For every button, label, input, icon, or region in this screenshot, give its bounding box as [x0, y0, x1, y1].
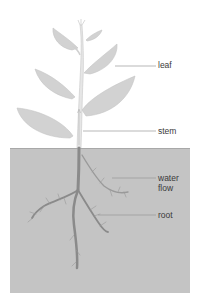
leaf-bottom-left	[17, 108, 73, 138]
leaf-mid-right	[84, 44, 117, 74]
shoot-tip	[78, 19, 85, 25]
water-label: water	[158, 174, 179, 183]
plant-diagram	[0, 0, 200, 306]
stem	[77, 25, 83, 148]
leaf-mid-left	[35, 69, 75, 99]
root-label: root	[158, 211, 173, 220]
flow-label: flow	[158, 184, 173, 193]
leaf-label: leaf	[158, 61, 172, 70]
soil-area	[10, 148, 190, 293]
leaf-top-right	[86, 30, 102, 41]
leaf-lower-right	[82, 76, 135, 116]
leaves	[17, 28, 135, 138]
stem-label: stem	[158, 127, 176, 136]
